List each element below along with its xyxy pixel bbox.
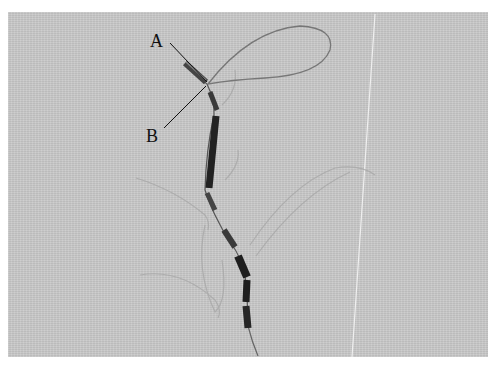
sketch-sprout-2 — [225, 150, 238, 180]
label-b: B — [146, 127, 158, 145]
sketch-leaves — [136, 70, 375, 318]
leader-line-b — [164, 86, 206, 128]
bead-7 — [246, 280, 247, 302]
beads — [185, 62, 248, 328]
wire-loop — [208, 26, 331, 84]
bead-5 — [224, 230, 235, 247]
sketch-leaf-right-lower — [256, 172, 350, 256]
bead-6 — [238, 256, 247, 277]
sketch-stem-loop — [202, 225, 224, 312]
sketch-leaf-left — [136, 178, 209, 230]
label-a: A — [150, 32, 163, 50]
bead-3 — [209, 116, 216, 188]
photo-scene — [0, 0, 496, 366]
sketch-leaf-bottom-left — [140, 274, 219, 318]
sketch-sprout — [222, 70, 235, 105]
fabric-fold-line — [352, 14, 375, 357]
bead-a — [185, 63, 206, 82]
leader-line-a — [170, 43, 207, 82]
bead-2 — [210, 92, 217, 110]
wire-tail — [248, 326, 258, 356]
sketch-leaf-right-upper — [250, 167, 375, 245]
bead-8 — [246, 306, 248, 328]
